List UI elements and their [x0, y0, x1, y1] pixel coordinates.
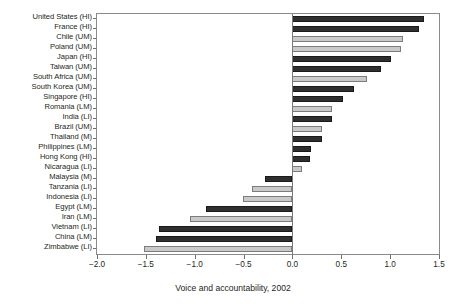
value-axis-tick-label: 1.5 [419, 260, 459, 270]
category-label: Indonesia (LI) [0, 193, 92, 201]
category-label: Nicaragua (LI) [0, 163, 92, 171]
category-label: Zimbabwe (LI) [0, 243, 92, 251]
value-axis-tick-label: 0.0 [272, 260, 312, 270]
category-tick [93, 68, 96, 69]
category-tick [93, 148, 96, 149]
category-label: Singapore (HI) [0, 93, 92, 101]
category-tick [93, 168, 96, 169]
category-tick [93, 118, 96, 119]
category-tick [93, 138, 96, 139]
bar [265, 176, 292, 182]
category-label: Philippines (LM) [0, 143, 92, 151]
bar [292, 56, 391, 62]
value-axis-tick [195, 255, 196, 259]
category-label: Tanzania (LI) [0, 183, 92, 191]
x-axis-title: Voice and accountability, 2002 [0, 283, 466, 293]
category-label: Japan (HI) [0, 53, 92, 61]
category-tick [93, 248, 96, 249]
voice-accountability-bar-chart: United States (HI)France (HI)Chile (UM)P… [0, 0, 466, 307]
bar [292, 116, 332, 122]
category-label: France (HI) [0, 23, 92, 31]
value-axis-tick-label: 1.0 [370, 260, 410, 270]
category-label: China (LM) [0, 233, 92, 241]
category-label: Taiwan (UM) [0, 63, 92, 71]
bar [292, 126, 321, 132]
category-label: Malaysia (M) [0, 173, 92, 181]
category-tick [93, 48, 96, 49]
bar [206, 206, 292, 212]
category-label: Thailand (M) [0, 133, 92, 141]
category-label: South Africa (UM) [0, 73, 92, 81]
category-axis-labels: United States (HI)France (HI)Chile (UM)P… [0, 13, 92, 255]
value-axis-tick-label: −1.0 [175, 260, 215, 270]
bar [292, 16, 424, 22]
category-tick [93, 178, 96, 179]
category-tick [93, 158, 96, 159]
bar [292, 66, 381, 72]
bar [292, 166, 302, 172]
bar [159, 226, 293, 232]
value-axis-tick [341, 255, 342, 259]
bar-series [97, 14, 439, 254]
bar [292, 26, 419, 32]
bar [292, 106, 331, 112]
bar [243, 196, 293, 202]
category-label: Poland (UM) [0, 43, 92, 51]
value-axis-tick-label: −0.5 [224, 260, 264, 270]
category-tick [93, 198, 96, 199]
category-tick [93, 38, 96, 39]
bar [292, 96, 343, 102]
bar [144, 246, 293, 252]
category-label: Romania (LM) [0, 103, 92, 111]
zero-reference-line [292, 14, 293, 255]
value-axis-tick-label: −1.5 [126, 260, 166, 270]
category-tick [93, 18, 96, 19]
category-tick [93, 58, 96, 59]
category-tick [93, 188, 96, 189]
category-label: Vietnam (LI) [0, 223, 92, 231]
bar [292, 156, 310, 162]
category-tick [93, 228, 96, 229]
bar [292, 36, 402, 42]
category-tick [93, 88, 96, 89]
category-label: Egypt (LM) [0, 203, 92, 211]
bar [292, 86, 354, 92]
value-axis: −2.0−1.5−1.0−0.50.00.51.01.5 [96, 255, 441, 285]
value-axis-tick [292, 255, 293, 259]
category-label: Brazil (UM) [0, 123, 92, 131]
category-tick [93, 128, 96, 129]
bar [292, 76, 366, 82]
value-axis-tick [146, 255, 147, 259]
category-label: Chile (UM) [0, 33, 92, 41]
value-axis-tick [97, 255, 98, 259]
value-axis-tick-label: 0.5 [321, 260, 361, 270]
bar [252, 186, 292, 192]
category-label: India (LI) [0, 113, 92, 121]
category-label: Iran (LM) [0, 213, 92, 221]
category-tick [93, 208, 96, 209]
bar [292, 146, 311, 152]
value-axis-tick [244, 255, 245, 259]
category-tick [93, 238, 96, 239]
bar [190, 216, 293, 222]
value-axis-tick [439, 255, 440, 259]
bar [156, 236, 293, 242]
value-axis-tick [390, 255, 391, 259]
category-tick [93, 108, 96, 109]
category-label: United States (HI) [0, 13, 92, 21]
category-label: South Korea (UM) [0, 83, 92, 91]
category-tick [93, 28, 96, 29]
bar [292, 136, 321, 142]
bar [292, 46, 400, 52]
value-axis-tick-label: −2.0 [77, 260, 117, 270]
category-label: Hong Kong (HI) [0, 153, 92, 161]
category-tick [93, 218, 96, 219]
category-tick [93, 98, 96, 99]
category-tick [93, 78, 96, 79]
